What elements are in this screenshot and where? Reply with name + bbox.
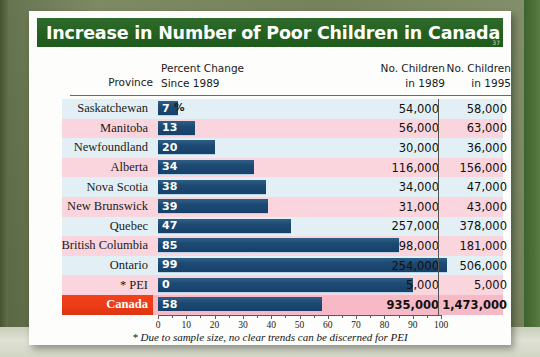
children-1995-value: 1,473,000 <box>447 295 511 315</box>
header-percent-change-line1: Percent Change <box>161 61 244 76</box>
percent-bar: 13 <box>158 121 195 136</box>
children-1989-value: 257,000 <box>349 217 445 237</box>
children-1989-value: 34,000 <box>349 177 445 197</box>
header-children-1989-line1: No. Children <box>349 61 445 76</box>
x-axis: 0102030405060708090100 <box>158 315 441 316</box>
percent-bar: 34 <box>158 160 254 175</box>
percent-bar: 47 <box>158 219 291 234</box>
axis-tick-minor <box>342 315 343 318</box>
percent-symbol: % <box>174 101 185 113</box>
axis-tick-minor <box>172 315 173 318</box>
axis-tick-label: 10 <box>182 320 192 330</box>
axis-tick-label: 20 <box>210 320 220 330</box>
province-label: Newfoundland <box>37 138 153 158</box>
axis-tick-minor <box>229 315 230 318</box>
province-label: Alberta <box>37 158 153 178</box>
children-1995-value: 63,000 <box>447 119 511 139</box>
table-row: Quebec47257,000378,000 <box>37 217 503 237</box>
header-province: Province <box>61 76 153 88</box>
percent-value: 13 <box>158 121 177 134</box>
column-headers: Province Percent Change Since 1989 No. C… <box>37 53 503 97</box>
header-children-1995-line2: in 1995 <box>435 76 511 91</box>
table-row: Ontario99254,000506,000 <box>37 256 503 276</box>
percent-value: 39 <box>158 200 177 213</box>
axis-tick <box>186 315 187 319</box>
axis-tick-label: 30 <box>238 320 248 330</box>
province-label: * PEI <box>37 275 153 295</box>
children-1995-value: 156,000 <box>447 158 511 178</box>
axis-tick-minor <box>257 315 258 318</box>
table-row: Alberta34116,000156,000 <box>37 158 503 178</box>
table-row: Canada58935,0001,473,000 <box>37 295 503 315</box>
header-percent-change: Percent Change Since 1989 <box>161 61 244 91</box>
axis-tick <box>356 315 357 319</box>
children-1989-value: 935,000 <box>349 295 445 315</box>
axis-tick-label: 100 <box>434 320 448 330</box>
axis-tick-label: 0 <box>156 320 161 330</box>
table-row: Newfoundland2030,00036,000 <box>37 138 503 158</box>
header-children-1995-line1: No. Children <box>435 61 511 76</box>
province-label: Ontario <box>37 256 153 276</box>
axis-tick-minor <box>285 315 286 318</box>
children-1989-value: 98,000 <box>349 236 445 256</box>
page-number-marker: 37 <box>492 39 500 46</box>
province-label: New Brunswick <box>37 197 153 217</box>
children-1989-value: 31,000 <box>349 197 445 217</box>
axis-tick-label: 60 <box>323 320 333 330</box>
children-1989-value: 56,000 <box>349 119 445 139</box>
backdrop-left-edge <box>0 0 8 357</box>
table-row: * PEI05,0005,000 <box>37 275 503 295</box>
children-1995-value: 58,000 <box>447 99 511 119</box>
header-divider <box>70 95 511 96</box>
footnote: * Due to sample size, no clear trends ca… <box>37 331 503 343</box>
header-children-1989-line2: in 1989 <box>349 76 445 91</box>
axis-tick-label: 40 <box>266 320 276 330</box>
province-label: Quebec <box>37 217 153 237</box>
axis-tick <box>271 315 272 319</box>
axis-tick-label: 70 <box>351 320 361 330</box>
children-1995-value: 181,000 <box>447 236 511 256</box>
percent-value: 0 <box>158 278 170 291</box>
axis-tick <box>300 315 301 319</box>
province-label: British Columbia <box>37 236 153 256</box>
percent-bar: 58 <box>158 297 322 312</box>
children-1995-value: 47,000 <box>447 177 511 197</box>
axis-tick-minor <box>399 315 400 318</box>
percent-value: 47 <box>158 219 177 232</box>
axis-tick-minor <box>200 315 201 318</box>
children-1989-value: 54,000 <box>349 99 445 119</box>
children-1995-value: 378,000 <box>447 217 511 237</box>
axis-tick-label: 80 <box>380 320 390 330</box>
axis-tick <box>413 315 414 319</box>
province-label: Canada <box>62 295 153 315</box>
percent-bar: 39 <box>158 199 268 214</box>
percent-value: 34 <box>158 160 177 173</box>
province-label: Saskatchewan <box>37 99 153 119</box>
percent-value: 7 <box>158 102 170 115</box>
children-1989-value: 254,000 <box>349 256 445 276</box>
children-1989-value: 30,000 <box>349 138 445 158</box>
header-percent-change-line2: Since 1989 <box>161 76 244 91</box>
province-label: Nova Scotia <box>37 177 153 197</box>
children-1995-value: 506,000 <box>447 256 511 276</box>
axis-tick-minor <box>427 315 428 318</box>
chart-card: Increase in Number of Poor Children in C… <box>29 11 511 345</box>
percent-value: 99 <box>158 258 177 271</box>
table-row: Nova Scotia3834,00047,000 <box>37 177 503 197</box>
number-column-divider <box>438 99 439 315</box>
province-label: Manitoba <box>37 119 153 139</box>
axis-tick-minor <box>314 315 315 318</box>
axis-tick <box>243 315 244 319</box>
table-row: Manitoba1356,00063,000 <box>37 119 503 139</box>
table-row: British Columbia8598,000181,000 <box>37 236 503 256</box>
axis-tick-label: 50 <box>295 320 305 330</box>
axis-tick <box>328 315 329 319</box>
table-row: Saskatchewan7%54,00058,000 <box>37 99 503 119</box>
header-children-1989: No. Children in 1989 <box>349 61 445 91</box>
percent-bar: 20 <box>158 140 215 155</box>
chart-title-bar: Increase in Number of Poor Children in C… <box>37 18 503 47</box>
backdrop-right-band <box>524 0 540 327</box>
axis-tick-minor <box>370 315 371 318</box>
children-1995-value: 43,000 <box>447 197 511 217</box>
children-1989-value: 5,000 <box>349 275 445 295</box>
